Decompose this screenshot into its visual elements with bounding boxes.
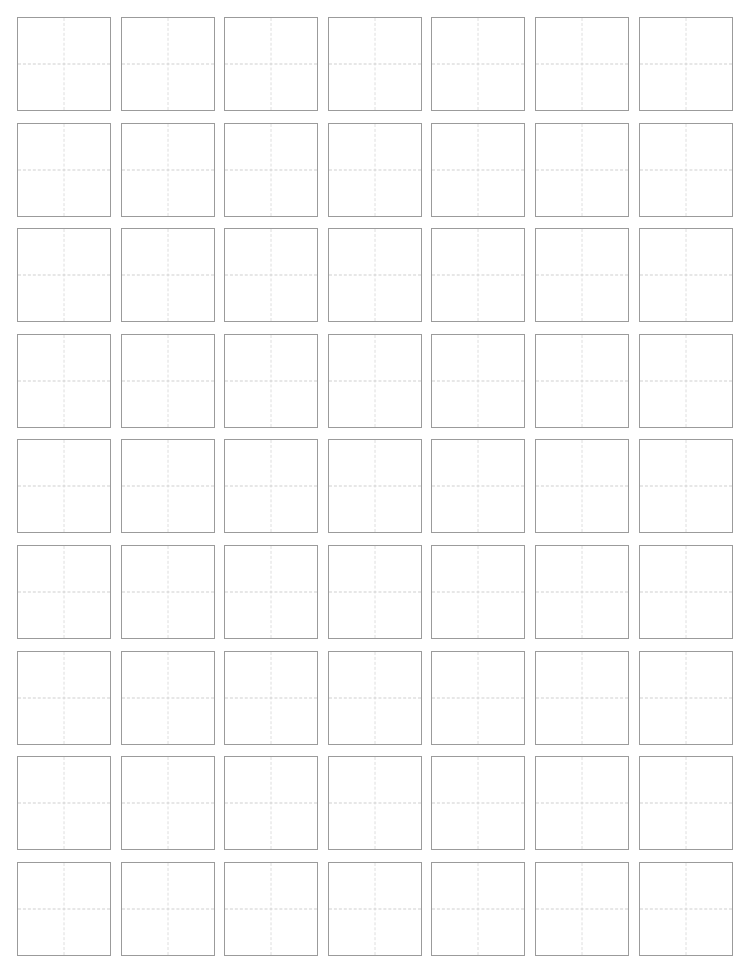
practice-cell[interactable] bbox=[224, 17, 318, 111]
horizontal-guide-line-icon bbox=[18, 380, 110, 381]
practice-cell[interactable] bbox=[328, 756, 422, 850]
horizontal-guide-line-icon bbox=[18, 908, 110, 909]
horizontal-guide-line-icon bbox=[225, 64, 317, 65]
practice-cell[interactable] bbox=[121, 334, 215, 428]
practice-cell[interactable] bbox=[639, 862, 733, 956]
practice-cell[interactable] bbox=[535, 123, 629, 217]
horizontal-guide-line-icon bbox=[329, 908, 421, 909]
practice-cell[interactable] bbox=[224, 862, 318, 956]
horizontal-guide-line-icon bbox=[329, 591, 421, 592]
practice-cell[interactable] bbox=[431, 17, 525, 111]
horizontal-guide-line-icon bbox=[536, 64, 628, 65]
horizontal-guide-line-icon bbox=[225, 908, 317, 909]
vertical-guide-line-icon bbox=[64, 440, 65, 532]
horizontal-guide-line-icon bbox=[18, 591, 110, 592]
practice-cell[interactable] bbox=[121, 756, 215, 850]
practice-cell[interactable] bbox=[431, 756, 525, 850]
horizontal-guide-line-icon bbox=[432, 380, 524, 381]
practice-cell[interactable] bbox=[224, 228, 318, 322]
practice-cell[interactable] bbox=[535, 862, 629, 956]
practice-cell[interactable] bbox=[17, 756, 111, 850]
horizontal-guide-line-icon bbox=[432, 275, 524, 276]
practice-cell[interactable] bbox=[17, 439, 111, 533]
practice-cell[interactable] bbox=[224, 651, 318, 745]
vertical-guide-line-icon bbox=[64, 757, 65, 849]
practice-cell[interactable] bbox=[535, 651, 629, 745]
practice-cell[interactable] bbox=[639, 228, 733, 322]
practice-cell[interactable] bbox=[224, 545, 318, 639]
practice-cell[interactable] bbox=[17, 862, 111, 956]
practice-cell[interactable] bbox=[328, 862, 422, 956]
horizontal-guide-line-icon bbox=[18, 64, 110, 65]
practice-cell[interactable] bbox=[17, 334, 111, 428]
horizontal-guide-line-icon bbox=[122, 697, 214, 698]
vertical-guide-line-icon bbox=[167, 124, 168, 216]
practice-cell[interactable] bbox=[224, 756, 318, 850]
vertical-guide-line-icon bbox=[167, 546, 168, 638]
practice-cell[interactable] bbox=[535, 17, 629, 111]
vertical-guide-line-icon bbox=[685, 440, 686, 532]
vertical-guide-line-icon bbox=[581, 652, 582, 744]
practice-cell[interactable] bbox=[431, 334, 525, 428]
practice-cell[interactable] bbox=[639, 334, 733, 428]
horizontal-guide-line-icon bbox=[122, 591, 214, 592]
practice-cell[interactable] bbox=[431, 651, 525, 745]
practice-cell[interactable] bbox=[535, 439, 629, 533]
practice-cell[interactable] bbox=[328, 17, 422, 111]
practice-cell[interactable] bbox=[639, 439, 733, 533]
practice-cell[interactable] bbox=[639, 756, 733, 850]
practice-cell[interactable] bbox=[431, 439, 525, 533]
practice-cell[interactable] bbox=[121, 123, 215, 217]
practice-cell[interactable] bbox=[431, 228, 525, 322]
practice-cell[interactable] bbox=[535, 756, 629, 850]
horizontal-guide-line-icon bbox=[18, 486, 110, 487]
horizontal-guide-line-icon bbox=[640, 908, 732, 909]
horizontal-guide-line-icon bbox=[225, 169, 317, 170]
vertical-guide-line-icon bbox=[478, 229, 479, 321]
vertical-guide-line-icon bbox=[167, 18, 168, 110]
horizontal-guide-line-icon bbox=[432, 486, 524, 487]
practice-cell[interactable] bbox=[121, 228, 215, 322]
horizontal-guide-line-icon bbox=[432, 697, 524, 698]
practice-cell[interactable] bbox=[639, 123, 733, 217]
practice-cell[interactable] bbox=[121, 439, 215, 533]
practice-cell[interactable] bbox=[639, 651, 733, 745]
practice-cell[interactable] bbox=[17, 228, 111, 322]
practice-cell[interactable] bbox=[431, 545, 525, 639]
practice-cell[interactable] bbox=[17, 123, 111, 217]
horizontal-guide-line-icon bbox=[122, 275, 214, 276]
practice-cell[interactable] bbox=[639, 17, 733, 111]
practice-cell[interactable] bbox=[431, 123, 525, 217]
practice-cell[interactable] bbox=[535, 545, 629, 639]
practice-cell[interactable] bbox=[121, 545, 215, 639]
practice-cell[interactable] bbox=[224, 334, 318, 428]
practice-cell[interactable] bbox=[121, 651, 215, 745]
practice-cell[interactable] bbox=[639, 545, 733, 639]
practice-cell[interactable] bbox=[328, 651, 422, 745]
practice-cell[interactable] bbox=[535, 228, 629, 322]
practice-cell[interactable] bbox=[224, 439, 318, 533]
practice-cell[interactable] bbox=[328, 123, 422, 217]
practice-cell[interactable] bbox=[328, 545, 422, 639]
practice-cell[interactable] bbox=[328, 228, 422, 322]
practice-cell[interactable] bbox=[121, 862, 215, 956]
vertical-guide-line-icon bbox=[271, 18, 272, 110]
vertical-guide-line-icon bbox=[478, 757, 479, 849]
worksheet-page bbox=[0, 0, 736, 965]
horizontal-guide-line-icon bbox=[640, 275, 732, 276]
horizontal-guide-line-icon bbox=[122, 380, 214, 381]
practice-cell[interactable] bbox=[17, 651, 111, 745]
practice-cell[interactable] bbox=[17, 17, 111, 111]
practice-cell[interactable] bbox=[328, 334, 422, 428]
horizontal-guide-line-icon bbox=[329, 803, 421, 804]
practice-cell[interactable] bbox=[328, 439, 422, 533]
practice-cell[interactable] bbox=[17, 545, 111, 639]
horizontal-guide-line-icon bbox=[536, 169, 628, 170]
practice-cell[interactable] bbox=[224, 123, 318, 217]
vertical-guide-line-icon bbox=[685, 335, 686, 427]
practice-cell[interactable] bbox=[431, 862, 525, 956]
vertical-guide-line-icon bbox=[581, 546, 582, 638]
horizontal-guide-line-icon bbox=[640, 64, 732, 65]
practice-cell[interactable] bbox=[535, 334, 629, 428]
practice-cell[interactable] bbox=[121, 17, 215, 111]
